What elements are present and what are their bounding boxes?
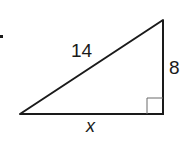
vertical-leg-label: 8 [169, 58, 180, 77]
right-angle-mark-icon [147, 98, 163, 114]
horizontal-leg-label: x [86, 117, 95, 135]
hypotenuse-label: 14 [71, 41, 92, 60]
right-triangle-figure: 14 8 x [0, 0, 184, 148]
bullet-dot [0, 35, 3, 38]
hypotenuse-line [20, 20, 163, 114]
